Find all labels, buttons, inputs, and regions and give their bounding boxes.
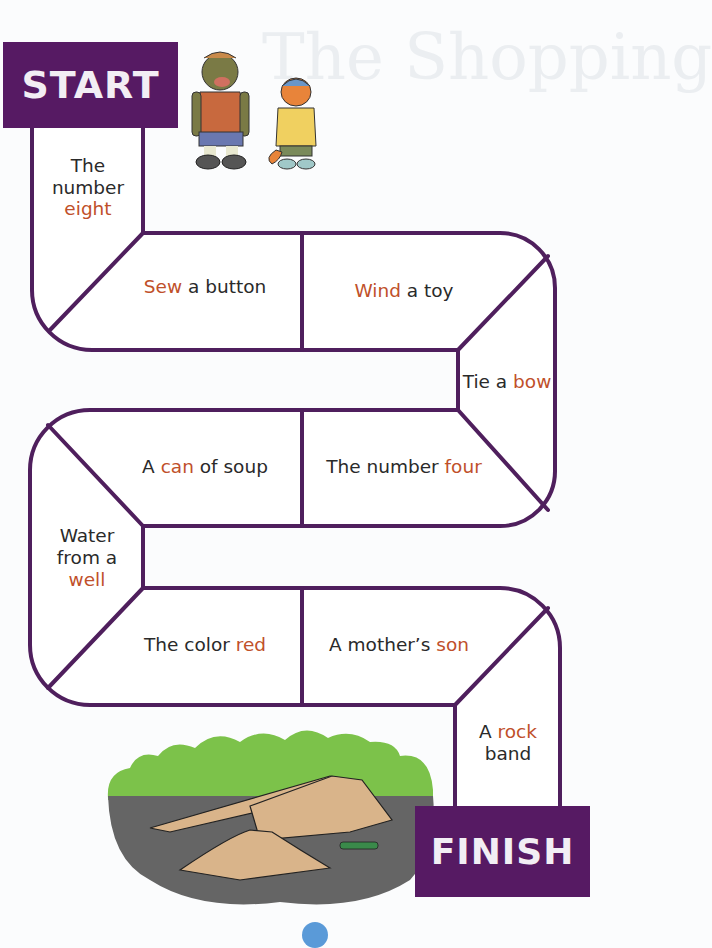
board-space-6[interactable]: A can of soup	[110, 442, 300, 492]
space-keyword: Sew	[144, 276, 182, 298]
space-keyword: Wind	[354, 280, 401, 302]
space-text: Tie a	[463, 371, 513, 393]
board-space-9[interactable]: A mother’s son	[304, 620, 494, 670]
page-number-circle	[302, 922, 328, 948]
bear-character-illustration	[192, 52, 249, 169]
space-keyword: eight	[52, 198, 124, 220]
space-text: A	[142, 456, 161, 478]
space-text: a button	[182, 276, 266, 298]
board-space-3[interactable]: Wind a toy	[304, 266, 504, 316]
space-text: A mother’s	[329, 634, 436, 656]
space-text: of soup	[194, 456, 268, 478]
space-text: a toy	[401, 280, 454, 302]
skatepark-illustration	[108, 730, 434, 904]
finish-sign: FINISH	[415, 806, 590, 897]
board-space-5[interactable]: The number four	[304, 442, 504, 492]
space-keyword: four	[445, 456, 482, 478]
space-text: A	[479, 721, 498, 742]
space-text: Water	[57, 525, 117, 547]
space-text: band	[479, 743, 537, 765]
space-text: The number	[326, 456, 444, 478]
board-space-2[interactable]: Sew a button	[110, 262, 300, 312]
board-space-4[interactable]: Tie a bow	[460, 356, 554, 408]
board-space-1[interactable]: The number eight	[34, 140, 142, 235]
space-keyword: red	[236, 634, 266, 656]
space-text: number	[52, 177, 124, 199]
board-space-8[interactable]: The color red	[110, 620, 300, 670]
board-space-10[interactable]: A rock band	[458, 708, 558, 778]
space-keyword: well	[57, 569, 117, 591]
fox-character-illustration	[269, 78, 316, 169]
space-keyword: son	[436, 634, 469, 656]
space-keyword: can	[161, 456, 194, 478]
space-text: from a	[57, 547, 117, 569]
space-keyword: rock	[498, 721, 537, 742]
space-text: The	[52, 155, 124, 177]
space-text: The color	[144, 634, 236, 656]
space-keyword: bow	[513, 371, 551, 393]
board-space-7[interactable]: Water from a well	[32, 515, 142, 601]
start-sign: START	[3, 42, 178, 128]
